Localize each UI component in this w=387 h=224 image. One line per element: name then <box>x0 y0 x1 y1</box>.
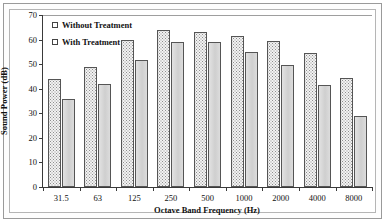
bar-pair <box>299 15 336 187</box>
legend-item-without-treatment: Without Treatment <box>52 20 132 30</box>
bar-without-treatment[interactable] <box>48 79 61 187</box>
bar-without-treatment[interactable] <box>304 53 317 187</box>
x-axis-tick-label: 500 <box>201 193 214 203</box>
x-axis-tick <box>189 187 190 191</box>
bar-chart: Sound Power (dB) Octave Band Frequency (… <box>0 0 387 224</box>
bar-pair <box>262 15 299 187</box>
bar-group: 1000 <box>226 15 263 187</box>
legend-swatch-icon <box>52 22 58 28</box>
bar-without-treatment[interactable] <box>121 40 134 187</box>
y-axis-tick-label: 40 <box>15 84 37 94</box>
legend-label-without-treatment: Without Treatment <box>62 20 132 30</box>
x-axis-tick-label: 2000 <box>272 193 289 203</box>
bar-pair <box>189 15 226 187</box>
y-axis-tick-label: 0 <box>15 182 37 192</box>
legend-label-with-treatment: With Treatment <box>62 37 120 47</box>
bar-with-treatment[interactable] <box>354 116 367 187</box>
bar-group: 4000 <box>299 15 336 187</box>
y-axis-tick-label: 10 <box>15 157 37 167</box>
bar-group: 8000 <box>336 15 373 187</box>
bar-with-treatment[interactable] <box>135 60 148 187</box>
bar-with-treatment[interactable] <box>245 52 258 187</box>
bar-with-treatment[interactable] <box>281 65 294 187</box>
x-axis-tick <box>299 187 300 191</box>
bar-group: 500 <box>189 15 226 187</box>
x-axis-tick-label: 63 <box>94 193 103 203</box>
bar-without-treatment[interactable] <box>194 32 207 187</box>
y-axis-tick-label: 60 <box>15 35 37 45</box>
bar-with-treatment[interactable] <box>171 42 184 187</box>
y-axis-tick-label: 30 <box>15 108 37 118</box>
x-axis-tick-label: 4000 <box>309 193 326 203</box>
x-axis-tick <box>372 187 373 191</box>
x-axis-tick <box>262 187 263 191</box>
y-axis-tick-label: 70 <box>15 10 37 20</box>
x-axis-tick-label: 250 <box>165 193 178 203</box>
bar-group: 2000 <box>262 15 299 187</box>
bar-with-treatment[interactable] <box>318 85 331 187</box>
x-axis-tick-label: 125 <box>128 193 141 203</box>
bar-with-treatment[interactable] <box>98 84 111 187</box>
x-axis-tick-label: 1000 <box>236 193 253 203</box>
bar-pair <box>226 15 263 187</box>
legend-item-with-treatment: With Treatment <box>52 37 132 47</box>
x-axis-tick <box>43 187 44 191</box>
bar-without-treatment[interactable] <box>157 30 170 187</box>
bar-without-treatment[interactable] <box>267 41 280 187</box>
x-axis-tick <box>80 187 81 191</box>
x-axis-tick <box>336 187 337 191</box>
x-axis-tick-label: 8000 <box>345 193 362 203</box>
bar-with-treatment[interactable] <box>208 42 221 187</box>
y-axis-title: Sound Power (dB) <box>0 67 9 135</box>
bar-without-treatment[interactable] <box>340 78 353 187</box>
x-axis-tick <box>153 187 154 191</box>
x-axis-tick <box>116 187 117 191</box>
y-axis-tick-label: 50 <box>15 59 37 69</box>
bar-without-treatment[interactable] <box>84 67 97 187</box>
bar-with-treatment[interactable] <box>62 99 75 187</box>
bar-without-treatment[interactable] <box>231 36 244 187</box>
y-axis-tick-label: 20 <box>15 133 37 143</box>
chart-legend: Without Treatment With Treatment <box>52 20 132 47</box>
bar-group: 250 <box>153 15 190 187</box>
x-axis-tick-label: 31.5 <box>54 193 69 203</box>
bar-pair <box>336 15 373 187</box>
x-axis-tick <box>226 187 227 191</box>
bar-pair <box>153 15 190 187</box>
x-axis-title: Octave Band Frequency (Hz) <box>42 205 372 215</box>
legend-swatch-icon <box>52 39 58 45</box>
